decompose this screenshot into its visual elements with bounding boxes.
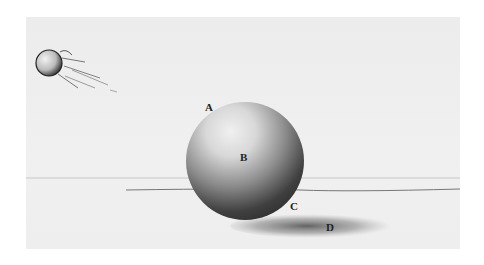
label-a: A	[205, 101, 213, 113]
label-d: D	[326, 221, 334, 233]
label-c: C	[290, 200, 298, 212]
label-b: B	[240, 151, 247, 163]
moving-ball-sketch	[36, 50, 117, 92]
drawing-canvas	[0, 0, 484, 265]
